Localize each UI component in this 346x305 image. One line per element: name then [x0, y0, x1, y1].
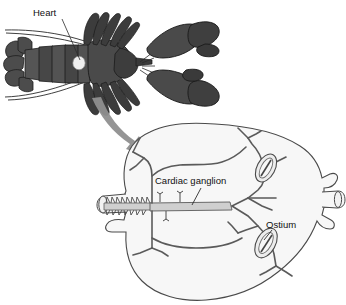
figure-root: Heart [0, 0, 346, 305]
posterior-artery-tube [322, 191, 345, 208]
cardiac-ganglion-label: Cardiac ganglion [155, 175, 226, 186]
lobster-heart-figure: Heart [0, 0, 346, 305]
walking-legs-lower [84, 79, 140, 115]
heart-label: Heart [33, 7, 57, 18]
ostium-label: Ostium [266, 219, 296, 230]
claw-upper [147, 22, 219, 58]
claw-lower [147, 69, 219, 106]
heart-detail-view: Cardiac ganglion Ostium [97, 123, 345, 300]
lobster-dorsal-view: Heart [4, 7, 220, 115]
